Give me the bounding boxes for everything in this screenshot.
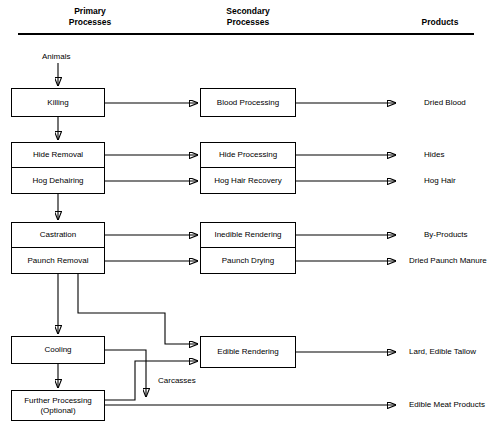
process-box-castration[interactable]: Castration [11,222,105,248]
input-label-animals: Animals [42,52,70,62]
process-box-edible-rendering[interactable]: Edible Rendering [200,336,296,368]
process-box-paunch-drying[interactable]: Paunch Drying [200,248,296,274]
product-label-by-products: By-Products [424,230,468,240]
process-box-paunch-removal[interactable]: Paunch Removal [11,248,105,274]
column-header-secondary: Secondary Processes [190,6,306,28]
process-box-blood-processing[interactable]: Blood Processing [200,88,296,117]
process-box-further-processing[interactable]: Further Processing (Optional) [11,390,105,421]
product-label-hides: Hides [424,150,444,160]
process-box-hog-dehairing[interactable]: Hog Dehairing [11,168,105,194]
column-header-products: Products [395,17,485,28]
wire-paunch-block-to-edible-rendering [78,274,198,344]
process-box-hide-processing[interactable]: Hide Processing [200,142,296,168]
process-box-killing[interactable]: Killing [11,88,105,117]
process-box-inedible-rendering[interactable]: Inedible Rendering [200,222,296,248]
product-label-dried-paunch-manure: Dried Paunch Manure [409,256,487,266]
edge-label-carcasses: Carcasses [158,376,196,386]
header-divider-rule [18,33,474,35]
flowchart-canvas: Primary Processes Secondary Processes Pr… [0,0,492,435]
process-box-hide-removal[interactable]: Hide Removal [11,142,105,168]
column-header-primary: Primary Processes [32,6,148,28]
process-box-cooling[interactable]: Cooling [11,336,105,364]
product-label-lard-edible-tallow: Lard, Edible Tallow [409,347,476,357]
wire-cooling-to-edible-meat-line [105,350,146,397]
product-label-dried-blood: Dried Blood [424,98,466,108]
process-box-hog-hair-recovery[interactable]: Hog Hair Recovery [200,168,296,194]
product-label-hog-hair: Hog Hair [424,176,456,186]
connector-wires [0,0,492,435]
product-label-edible-meat-products: Edible Meat Products [409,400,485,410]
